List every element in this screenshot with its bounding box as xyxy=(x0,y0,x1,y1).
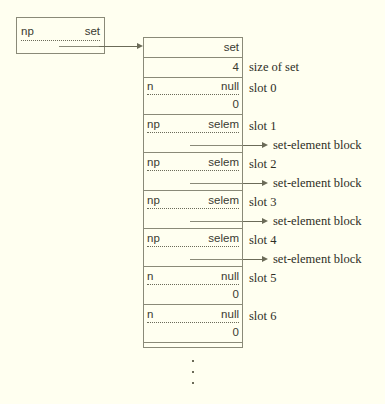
slot-4-pointer-label: set-element block xyxy=(273,253,362,266)
slot-0-annotation: slot 0 xyxy=(249,82,276,95)
slot-2-pointer-label: set-element block xyxy=(273,177,362,190)
set-block-row-divider xyxy=(143,266,243,267)
slot-3-pointer-stub xyxy=(190,221,243,222)
set-block-row-divider xyxy=(143,114,243,115)
set-block-row-divider xyxy=(143,190,243,191)
slot-4-pointer-arrow-line xyxy=(243,259,263,260)
slot-6-annotation: slot 6 xyxy=(249,310,276,323)
size-of-set-value: 4 xyxy=(143,62,243,74)
slot-0-right-label: null xyxy=(143,81,243,93)
slot-4-pointer-stub xyxy=(190,259,243,260)
slot-3-pointer-arrow-head xyxy=(262,218,268,224)
ellipsis-dot xyxy=(192,360,194,362)
slot-4-pointer-arrow-head xyxy=(262,256,268,262)
pointer-box-name-label: np xyxy=(21,26,34,38)
set-pointer-box: np set xyxy=(16,17,105,54)
slot-1-pointer-arrow-head xyxy=(262,142,268,148)
slot-3-divider xyxy=(147,208,239,209)
ellipsis-dot xyxy=(192,371,194,373)
slot-6-right-label: null xyxy=(143,309,243,321)
slot-2-pointer-arrow-head xyxy=(262,180,268,186)
set-block-row-divider xyxy=(143,57,243,58)
set-block-row-divider xyxy=(143,152,243,153)
slot-2-divider xyxy=(147,170,239,171)
slot-3-pointer-label: set-element block xyxy=(273,215,362,228)
slot-3-annotation: slot 3 xyxy=(249,196,276,209)
slot-3-right-label: selem xyxy=(143,195,243,207)
slot-1-annotation: slot 1 xyxy=(249,120,276,133)
slot-1-right-label: selem xyxy=(143,119,243,131)
pointer-value-line xyxy=(59,46,99,47)
slot-0-value: 0 xyxy=(143,99,243,111)
size-of-set-annotation: size of set xyxy=(249,61,299,74)
slot-2-right-label: selem xyxy=(143,157,243,169)
set-block-row-divider xyxy=(143,228,243,229)
slot-4-right-label: selem xyxy=(143,233,243,245)
slot-4-annotation: slot 4 xyxy=(249,234,276,247)
slot-5-right-label: null xyxy=(143,271,243,283)
slot-5-value: 0 xyxy=(143,289,243,301)
slot-1-pointer-stub xyxy=(190,145,243,146)
slot-0-divider xyxy=(147,94,239,95)
slot-4-divider xyxy=(147,246,239,247)
pointer-box-type-label: set xyxy=(85,26,100,38)
slot-5-divider xyxy=(147,284,239,285)
continuation-ellipsis xyxy=(186,360,200,390)
ellipsis-dot xyxy=(192,382,194,384)
set-pointer-arrow-line xyxy=(99,46,138,47)
slot-2-pointer-stub xyxy=(190,183,243,184)
slot-1-divider xyxy=(147,132,239,133)
set-block-row-divider xyxy=(143,77,243,78)
slot-1-pointer-label: set-element block xyxy=(273,139,362,152)
set-block-row-divider xyxy=(143,342,243,343)
slot-5-annotation: slot 5 xyxy=(249,272,276,285)
set-header-value: set xyxy=(143,42,243,54)
slot-6-value: 0 xyxy=(143,327,243,339)
slot-2-annotation: slot 2 xyxy=(249,158,276,171)
pointer-box-divider xyxy=(21,40,100,41)
slot-2-pointer-arrow-line xyxy=(243,183,263,184)
slot-1-pointer-arrow-line xyxy=(243,145,263,146)
slot-3-pointer-arrow-line xyxy=(243,221,263,222)
slot-6-divider xyxy=(147,322,239,323)
set-block-row-divider xyxy=(143,304,243,305)
